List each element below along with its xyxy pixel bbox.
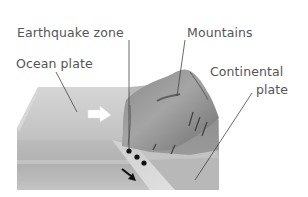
label-continental-plate-line2: plate [256,84,288,97]
earthquake-focus-dot [141,160,146,165]
label-earthquake-zone: Earthquake zone [17,27,124,40]
earthquake-focus-dot [134,154,139,159]
mountains [122,69,219,155]
subduction-diagram: Earthquake zone Mountains Ocean plate Co… [0,0,308,197]
label-continental-plate-line1: Continental [210,66,283,79]
earthquake-focus-dot [126,148,131,153]
label-ocean-plate: Ocean plate [16,58,93,71]
label-mountains: Mountains [187,27,253,40]
